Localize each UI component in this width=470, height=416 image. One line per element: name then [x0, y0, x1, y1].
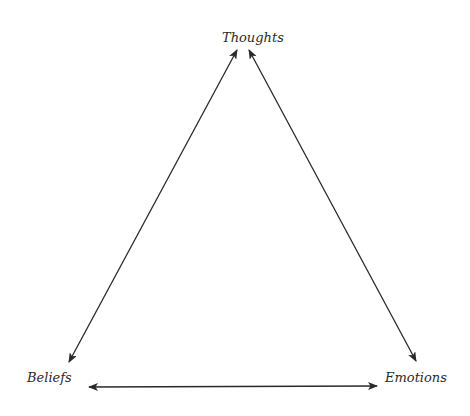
arrow-thoughts-beliefs — [69, 50, 237, 362]
node-beliefs: Beliefs — [27, 370, 72, 385]
triangle-diagram: Thoughts Beliefs Emotions — [0, 0, 470, 416]
arrow-beliefs-emotions — [89, 386, 377, 387]
node-thoughts: Thoughts — [222, 30, 284, 45]
arrow-thoughts-emotions — [249, 50, 416, 361]
arrows-layer — [0, 0, 470, 416]
node-emotions: Emotions — [385, 370, 447, 385]
